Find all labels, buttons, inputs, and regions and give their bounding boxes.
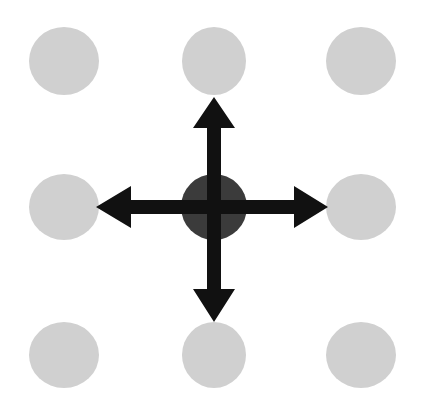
diagram-canvas: top-left neighbortop neighbortop-right n… — [0, 0, 430, 409]
node-bottom-right: bottom-right neighbor — [326, 322, 396, 388]
node-top-left: top-left neighbor — [29, 27, 99, 95]
node-top-center: top neighbor — [182, 27, 246, 95]
node-top-right: top-right neighbor — [326, 27, 396, 95]
node-middle-left: left neighbor — [29, 174, 99, 240]
node-middle-right: right neighbor — [326, 174, 396, 240]
node-bottom-center: bottom neighbor — [182, 322, 246, 388]
neighborhood-diagram: top-left neighbortop neighbortop-right n… — [0, 0, 430, 409]
node-bottom-left: bottom-left neighbor — [29, 322, 99, 388]
